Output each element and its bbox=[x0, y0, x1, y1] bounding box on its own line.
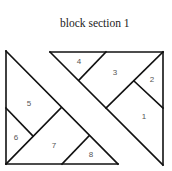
piece-4-label: 4 bbox=[77, 57, 82, 66]
right-section bbox=[50, 52, 163, 165]
piece-2-divider bbox=[134, 81, 163, 108]
block-diagram: 1 2 3 4 5 6 7 8 bbox=[0, 0, 172, 171]
piece-6-label: 6 bbox=[14, 133, 19, 142]
piece-5-label: 5 bbox=[27, 99, 32, 108]
piece-8-label: 8 bbox=[89, 150, 94, 159]
piece-8-divider bbox=[62, 136, 89, 164]
left-section bbox=[6, 51, 118, 164]
piece-7-label: 7 bbox=[52, 141, 57, 150]
piece-4-divider bbox=[79, 52, 106, 80]
piece-6-divider bbox=[6, 108, 33, 136]
piece-1-label: 1 bbox=[142, 112, 147, 121]
piece-3-label: 3 bbox=[113, 68, 118, 77]
piece-2-label: 2 bbox=[150, 75, 155, 84]
